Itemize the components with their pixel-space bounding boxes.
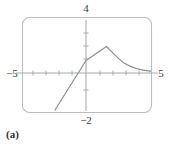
y-min-label: −2 (80, 114, 92, 126)
plot-frame (23, 18, 152, 113)
figure-container: 4 −5 5 −2 (a) (0, 0, 171, 147)
x-max-label: 5 (158, 67, 164, 79)
y-max-label: 4 (83, 2, 89, 14)
figure-caption: (a) (6, 128, 19, 140)
graph-svg: 4 −5 5 −2 (0, 0, 171, 147)
x-min-label: −5 (6, 67, 18, 79)
